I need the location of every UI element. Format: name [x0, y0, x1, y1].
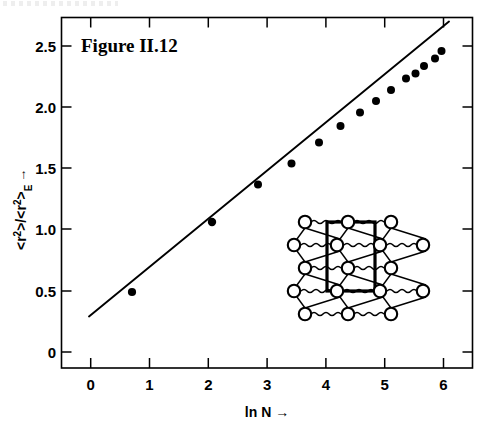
figure-container: 2.5 2.0 1.5 1.0 0.5 0 0 1 2 3 4 5 6 ln N…: [0, 0, 484, 432]
y-tick-label-1.0: 1.0: [35, 221, 56, 238]
x-tick-label-3: 3: [263, 376, 271, 393]
y-tick-label-0.5: 0.5: [35, 283, 56, 300]
x-axis-ticks-top: [91, 18, 444, 28]
data-point: [402, 75, 410, 83]
data-point: [315, 139, 323, 147]
y-axis-ticks-right: [463, 46, 473, 352]
lattice-node: [299, 308, 311, 320]
y-tick-label-2.5: 2.5: [35, 38, 56, 55]
y-title-arrow: →: [14, 169, 29, 182]
x-tick-label-0: 0: [87, 376, 95, 393]
lattice-node: [385, 216, 397, 228]
x-tick-label-1: 1: [145, 376, 153, 393]
y-title-den-close: >: [13, 191, 29, 199]
y-axis-ticks: [62, 46, 72, 352]
data-point: [356, 109, 364, 117]
lattice-node: [331, 239, 343, 251]
lattice-node: [417, 239, 429, 251]
y-title-subscript: E: [23, 184, 34, 191]
data-points: [128, 47, 446, 296]
x-axis-title: ln N →: [245, 404, 289, 420]
lattice-node: [374, 239, 386, 251]
y-tick-label-1.5: 1.5: [35, 160, 56, 177]
lattice-node: [342, 216, 354, 228]
lattice-bonds-horizontal: [301, 220, 417, 315]
lattice-node: [331, 285, 343, 297]
lattice-node: [417, 285, 429, 297]
lattice-node: [385, 262, 397, 274]
lattice-node: [299, 216, 311, 228]
x-tick-label-5: 5: [381, 376, 389, 393]
lattice-inset: [288, 216, 429, 320]
data-point: [254, 181, 262, 189]
lattice-node: [288, 239, 300, 251]
y-tick-label-2.0: 2.0: [35, 99, 56, 116]
y-title-num-open: <r: [13, 236, 29, 250]
lattice-node: [385, 308, 397, 320]
data-point: [412, 70, 420, 78]
y-tick-label-0: 0: [48, 344, 56, 361]
scatter-plot: 2.5 2.0 1.5 1.0 0.5 0 0 1 2 3 4 5 6 ln N…: [0, 0, 484, 432]
plot-frame: [62, 18, 473, 369]
lattice-node: [288, 285, 300, 297]
x-tick-label-4: 4: [322, 376, 331, 393]
data-point: [288, 160, 296, 168]
page-title: Figure II.12: [81, 35, 178, 56]
data-point: [337, 122, 345, 130]
x-axis-ticks: [91, 358, 444, 368]
y-title-num-close: >/<r: [13, 205, 29, 231]
y-axis-title: <r2>/<r2>E→: [12, 169, 34, 250]
data-point: [431, 55, 439, 63]
lattice-node: [299, 262, 311, 274]
data-point: [420, 62, 428, 70]
svg-text:<r2>/<r2>E→: <r2>/<r2>E→: [12, 169, 34, 250]
lattice-node: [342, 308, 354, 320]
data-point: [208, 218, 216, 226]
x-tick-label-2: 2: [204, 376, 212, 393]
data-point: [387, 86, 395, 94]
data-point: [372, 97, 380, 105]
lattice-node: [342, 262, 354, 274]
x-tick-label-6: 6: [439, 376, 447, 393]
data-point: [438, 47, 446, 55]
data-point: [128, 288, 136, 296]
lattice-node: [374, 285, 386, 297]
